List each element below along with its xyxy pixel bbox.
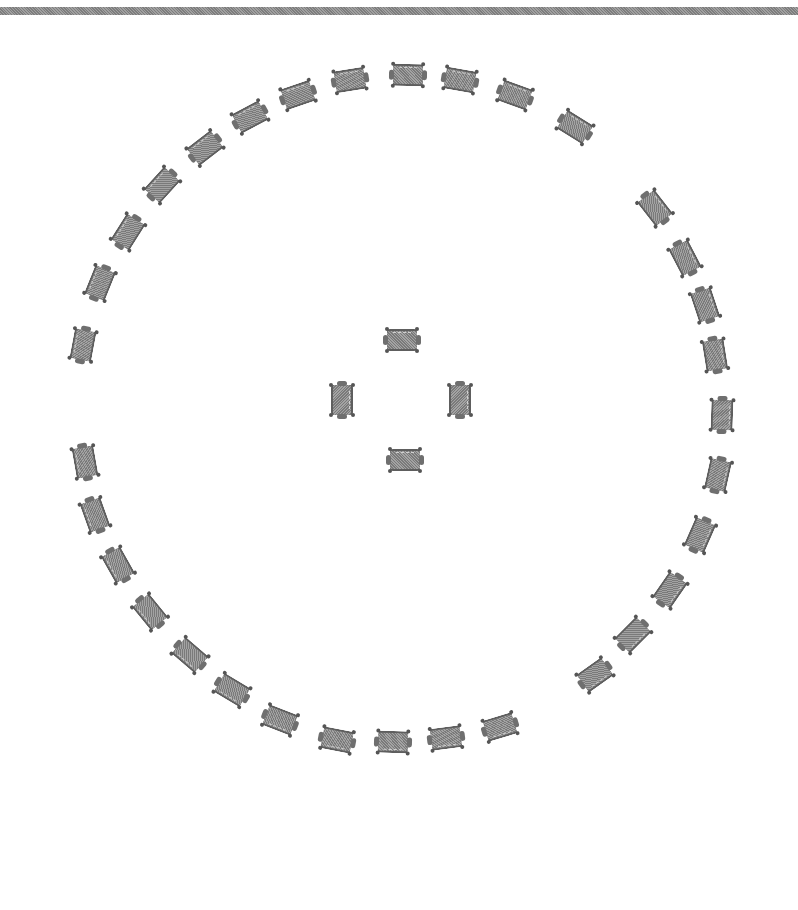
corner-icon bbox=[295, 713, 300, 718]
corner-icon bbox=[702, 485, 707, 490]
ring-unit bbox=[491, 75, 538, 115]
corner-icon bbox=[418, 447, 422, 451]
corner-icon bbox=[474, 69, 479, 74]
corner-icon bbox=[509, 710, 514, 715]
ring-unit bbox=[571, 652, 620, 698]
corner-icon bbox=[108, 523, 113, 528]
ring-unit bbox=[647, 566, 693, 615]
corner-icon bbox=[726, 366, 731, 371]
center-unit bbox=[382, 326, 422, 354]
wheel-icon bbox=[386, 455, 391, 465]
ring-unit bbox=[663, 234, 706, 282]
corner-icon bbox=[318, 746, 323, 751]
corner-icon bbox=[236, 704, 241, 709]
corner-icon bbox=[523, 108, 528, 113]
top-bar bbox=[0, 7, 798, 15]
unit-body bbox=[482, 712, 517, 742]
corner-icon bbox=[515, 731, 520, 736]
corner-icon bbox=[102, 298, 107, 303]
ring-unit bbox=[226, 95, 274, 138]
corner-icon bbox=[347, 751, 352, 756]
unit-body bbox=[69, 328, 96, 362]
corner-icon bbox=[530, 87, 535, 92]
corner-icon bbox=[113, 271, 118, 276]
corner-icon bbox=[165, 614, 171, 620]
corner-icon bbox=[98, 495, 103, 500]
corner-icon bbox=[351, 383, 355, 387]
corner-icon bbox=[447, 413, 451, 417]
corner-icon bbox=[731, 398, 735, 402]
ring-unit bbox=[679, 511, 721, 559]
corner-icon bbox=[415, 349, 419, 353]
wheel-icon bbox=[407, 737, 412, 747]
corner-icon bbox=[441, 86, 446, 91]
corner-icon bbox=[94, 330, 99, 335]
corner-icon bbox=[191, 670, 197, 676]
ring-unit bbox=[698, 333, 732, 377]
unit-body bbox=[387, 329, 417, 351]
corner-icon bbox=[108, 236, 114, 242]
corner-icon bbox=[685, 237, 690, 242]
wheel-icon bbox=[717, 396, 727, 401]
wheel-icon bbox=[75, 358, 86, 365]
corner-icon bbox=[709, 398, 713, 402]
corner-icon bbox=[554, 126, 560, 132]
corner-icon bbox=[329, 413, 333, 417]
corner-icon bbox=[418, 469, 422, 473]
ring-unit bbox=[68, 440, 103, 484]
wheel-icon bbox=[374, 736, 379, 746]
unit-body bbox=[690, 287, 720, 322]
corner-icon bbox=[351, 730, 356, 735]
wheel-icon bbox=[422, 70, 427, 80]
unit-body bbox=[430, 725, 463, 751]
corner-icon bbox=[376, 750, 380, 754]
corner-icon bbox=[287, 733, 292, 738]
corner-icon bbox=[421, 62, 425, 66]
corner-icon bbox=[495, 98, 500, 103]
ring-unit bbox=[166, 631, 215, 678]
wheel-icon bbox=[363, 72, 370, 83]
unit-body bbox=[704, 458, 732, 492]
corner-icon bbox=[718, 313, 723, 318]
center-unit bbox=[328, 380, 356, 420]
corner-icon bbox=[681, 542, 686, 547]
unit-body bbox=[72, 445, 99, 478]
ring-unit bbox=[80, 259, 121, 307]
ring-unit bbox=[328, 63, 372, 97]
unit-body bbox=[320, 726, 354, 753]
corner-icon bbox=[730, 460, 735, 465]
corner-icon bbox=[388, 447, 392, 451]
ring-unit bbox=[256, 700, 303, 741]
corner-icon bbox=[285, 108, 290, 113]
unit-body bbox=[331, 385, 353, 415]
corner-icon bbox=[721, 336, 726, 341]
unit-body bbox=[333, 67, 366, 94]
wheel-icon bbox=[473, 77, 480, 88]
corner-icon bbox=[460, 745, 464, 749]
wheel-icon bbox=[459, 731, 465, 742]
wheel-icon bbox=[389, 70, 394, 80]
corner-icon bbox=[447, 383, 451, 387]
ring-unit bbox=[106, 208, 151, 257]
corner-icon bbox=[266, 117, 271, 122]
center-unit bbox=[385, 446, 425, 474]
corner-icon bbox=[335, 91, 340, 96]
corner-icon bbox=[82, 290, 87, 295]
ring-unit bbox=[551, 105, 600, 150]
corner-icon bbox=[157, 201, 163, 207]
wheel-icon bbox=[709, 488, 720, 495]
corner-icon bbox=[421, 84, 425, 88]
wheel-icon bbox=[83, 475, 94, 482]
corner-icon bbox=[611, 672, 617, 678]
wheel-icon bbox=[337, 414, 347, 419]
corner-icon bbox=[697, 320, 702, 325]
corner-icon bbox=[351, 413, 355, 417]
wheel-icon bbox=[416, 335, 421, 345]
corner-icon bbox=[259, 722, 264, 727]
ring-unit bbox=[126, 588, 173, 637]
corner-icon bbox=[313, 98, 318, 103]
wheel-icon bbox=[716, 429, 726, 434]
unit-body bbox=[497, 80, 533, 111]
corner-icon bbox=[306, 77, 311, 82]
corner-icon bbox=[385, 349, 389, 353]
